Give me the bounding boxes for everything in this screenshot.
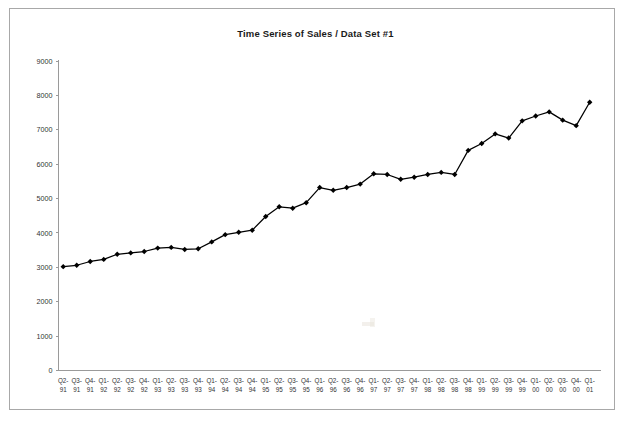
x-tick-label-year: 98 [424,386,432,393]
x-tick-label-year: 94 [235,386,243,393]
data-point-marker [344,185,349,190]
x-tick-label-quarter: Q4- [85,377,96,385]
data-point-marker [439,170,444,175]
x-tick-label-year: 98 [465,386,473,393]
x-tick-label-year: 91 [73,386,81,393]
x-tick-label-quarter: Q2- [274,377,285,385]
x-tick-label-quarter: Q2- [328,377,339,385]
data-point-marker [560,117,565,122]
x-tick-label-quarter: Q2- [544,377,555,385]
line-chart-svg: 0100020003000400050006000700080009000 Q2… [0,0,631,421]
data-point-marker [74,263,79,268]
x-tick-label-quarter: Q4- [193,377,204,385]
x-tick-label-year: 96 [330,386,338,393]
x-axis-labels: Q2-91Q3-91Q4-91Q1-92Q2-92Q3-92Q4-92Q1-93… [58,377,595,393]
x-tick-label-year: 97 [411,386,419,393]
y-tick-label: 0 [49,366,53,375]
x-tick-label-year: 00 [559,386,567,393]
x-tick-label-quarter: Q2- [490,377,501,385]
x-tick-label-quarter: Q3- [449,377,460,385]
series-line-sales [63,102,589,266]
x-tick-label-year: 95 [276,386,284,393]
x-tick-label-year: 96 [357,386,365,393]
x-tick-label-year: 94 [249,386,257,393]
x-tick-label-quarter: Q4- [571,377,582,385]
x-tick-label-quarter: Q1- [152,377,163,385]
x-tick-label-quarter: Q1- [260,377,271,385]
x-tick-label-quarter: Q1- [368,377,379,385]
x-tick-label-quarter: Q4- [139,377,150,385]
x-tick-label-quarter: Q3- [179,377,190,385]
x-tick-label-year: 93 [195,386,203,393]
plot-area: 0100020003000400050006000700080009000 Q2… [0,0,631,421]
data-point-marker [425,172,430,177]
data-point-marker [182,247,187,252]
x-tick-label-year: 95 [303,386,311,393]
x-tick-label-year: 98 [438,386,446,393]
x-tick-label-quarter: Q2- [382,377,393,385]
y-tick-label: 1000 [37,332,53,341]
x-tick-label-year: 97 [397,386,405,393]
x-tick-label-year: 92 [141,386,149,393]
x-tick-label-year: 99 [505,386,513,393]
data-point-marker [587,100,592,105]
y-tick-label: 3000 [37,263,53,272]
data-point-marker [128,250,133,255]
data-point-marker [290,205,295,210]
y-tick-label: 4000 [37,229,53,238]
y-tick-label: 7000 [37,125,53,134]
data-point-marker [142,249,147,254]
x-tick-label-quarter: Q3- [233,377,244,385]
x-tick-label-year: 00 [532,386,540,393]
x-tick-label-year: 94 [208,386,216,393]
data-point-marker [574,123,579,128]
x-tick-label-quarter: Q2- [112,377,123,385]
x-tick-label-year: 94 [222,386,230,393]
x-tick-label-year: 96 [316,386,324,393]
x-tick-label-year: 91 [60,386,68,393]
x-tick-label-quarter: Q1- [98,377,109,385]
x-tick-label-year: 99 [478,386,486,393]
x-tick-label-quarter: Q3- [125,377,136,385]
x-tick-label-quarter: Q2- [220,377,231,385]
x-tick-label-year: 00 [546,386,554,393]
x-tick-label-quarter: Q4- [301,377,312,385]
y-axis: 0100020003000400050006000700080009000 [37,57,59,376]
data-point-marker [398,177,403,182]
x-tick-label-quarter: Q3- [557,377,568,385]
x-tick-label-quarter: Q1- [476,377,487,385]
x-tick-label-quarter: Q1- [530,377,541,385]
data-point-marker [88,259,93,264]
data-point-marker [209,239,214,244]
x-tick-label-quarter: Q3- [395,377,406,385]
data-point-marker [331,188,336,193]
x-tick-label-quarter: Q1- [206,377,217,385]
data-point-marker [196,246,201,251]
data-point-marker [115,252,120,257]
data-point-marker [169,245,174,250]
x-tick-label-year: 96 [343,386,351,393]
data-point-marker [452,172,457,177]
y-tick-label: 9000 [37,57,53,66]
x-tick-label-year: 00 [573,386,581,393]
y-tick-label: 5000 [37,194,53,203]
x-tick-label-year: 93 [181,386,189,393]
x-tick-label-year: 92 [100,386,108,393]
x-tick-label-quarter: Q1- [314,377,325,385]
x-tick-label-year: 98 [451,386,459,393]
x-tick-label-year: 93 [168,386,176,393]
y-tick-label: 2000 [37,297,53,306]
data-point-marker [223,232,228,237]
x-tick-label-quarter: Q3- [503,377,514,385]
x-tick-label-year: 95 [262,386,270,393]
data-point-marker [236,230,241,235]
x-tick-label-year: 95 [289,386,297,393]
x-tick-label-quarter: Q2- [166,377,177,385]
x-tick-label-year: 99 [519,386,527,393]
y-tick-label: 6000 [37,160,53,169]
data-point-marker [61,264,66,269]
x-tick-label-year: 99 [492,386,500,393]
paper-smudge-2 [370,318,375,327]
x-tick-label-year: 97 [384,386,392,393]
x-tick-label-quarter: Q3- [287,377,298,385]
